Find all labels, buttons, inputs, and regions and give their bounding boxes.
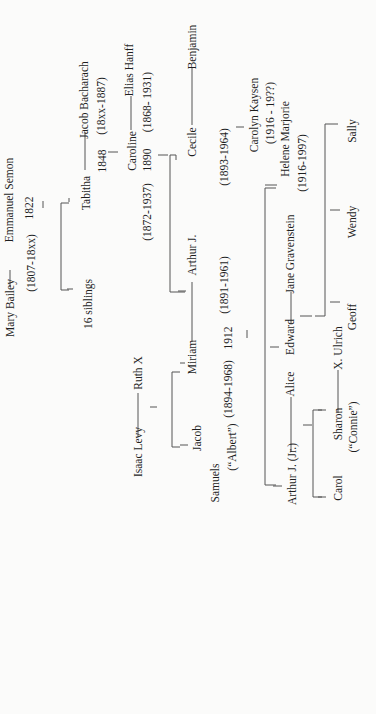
person-edward: Edward: [284, 319, 296, 355]
person-arthur-j: Arthur J.: [186, 235, 198, 276]
person-helene-marjorie: Helene Marjorie: [279, 101, 291, 177]
person-arthur-j-jr: Arthur J. (Jr.): [286, 443, 298, 505]
person-mary-bailey: Mary Bailey: [4, 279, 16, 337]
surname-samuels: Samuels: [209, 464, 221, 503]
dates-arthur-j: (1891-1961): [218, 256, 230, 314]
nickname-albert: (“Albert”): [226, 423, 238, 470]
dates-mary-bailey: (1807-18xx): [25, 234, 37, 292]
person-emmanuel-semon: Emmanuel Semon: [3, 158, 15, 243]
person-geoff: Geoff: [346, 304, 358, 331]
nickname-connie: (“Connie”): [347, 401, 359, 452]
dates-carolyn-kaysen: (1916 - 19??): [264, 82, 276, 144]
person-sally: Sally: [346, 119, 358, 143]
dates-helene-marjorie: (1916-1997): [296, 134, 308, 192]
dates-miriam: (1894-1968): [222, 360, 234, 418]
marriage-year-1912: 1912: [222, 327, 234, 350]
marriage-year-1822: 1822: [23, 197, 35, 220]
person-jacob-bacharach: Jacob Bacharach: [78, 61, 90, 139]
person-caroline: Caroline: [126, 131, 138, 171]
person-jane-gravenstein: Jane Gravenstein: [284, 215, 296, 294]
person-wendy: Wendy: [346, 206, 358, 238]
marriage-year-1848: 1848: [96, 150, 108, 173]
marriage-year-1890: 1890: [141, 149, 153, 172]
family-tree-diagram: Mary Bailey (1807-18xx) Emmanuel Semon 1…: [0, 0, 376, 714]
person-carol: Carol: [332, 475, 344, 501]
person-benjamin: Benjamin: [186, 25, 198, 70]
dates-cecile: (1893-1964): [218, 128, 230, 186]
person-jacob: Jacob: [191, 425, 203, 451]
dates-jacob-bacharach: (18xx-1887): [95, 77, 107, 135]
person-cecile: Cecile: [186, 127, 198, 156]
person-carolyn-kaysen: Carolyn Kaysen: [248, 78, 260, 152]
person-tabitha: Tabitha: [80, 176, 92, 210]
person-sharon: Sharon: [332, 408, 344, 441]
person-x-ulrich: X. Ulrich: [332, 326, 344, 369]
dates-caroline: (1872-1937): [141, 183, 153, 241]
dates-elias-hanff: (1868- 1931): [141, 72, 153, 132]
person-ruth-x: Ruth X: [132, 356, 144, 390]
person-sixteen-siblings: 16 siblings: [82, 279, 94, 329]
person-miriam: Miriam: [186, 340, 198, 375]
person-elias-hanff: Elias Hanff: [123, 44, 135, 96]
person-isaac-levy: Isaac Levy: [132, 427, 144, 477]
person-alice: Alice: [284, 372, 296, 397]
